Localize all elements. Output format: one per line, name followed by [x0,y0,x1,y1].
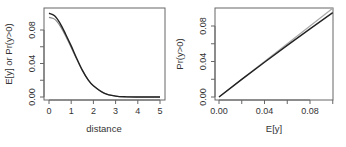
right-x-axis-label: E[y] [266,123,282,134]
right-x-axis: 0.000.040.08 [210,100,333,116]
x-tick-label: 0.08 [301,106,319,116]
x-tick-label: 0.00 [210,106,228,116]
x-tick-label: 2 [91,106,96,116]
series-line [49,13,160,97]
x-tick-label: 3 [113,106,118,116]
right-y-axis-label: Pr(y>0) [174,38,185,69]
left-series [49,13,160,97]
left-plot-frame [44,8,165,100]
x-tick-label: 5 [157,106,162,116]
series-line [219,13,333,97]
right-plot: 0.000.040.08 0.000.040.08 E[y] Pr(y>0) [174,8,333,134]
left-y-axis-label: E[y] or Pr(y>0) [3,23,14,85]
x-tick-label: 1 [69,106,74,116]
y-tick-label: 0.04 [198,53,208,71]
y-tick-label: 0.08 [198,17,208,35]
left-x-axis: 012345 [46,100,162,116]
left-x-axis-label: distance [86,123,121,134]
y-tick-label: 0.00 [27,88,37,106]
left-y-axis: 0.000.040.08 [27,21,44,106]
right-series [219,8,333,97]
series-line [49,17,160,97]
y-tick-label: 0.00 [198,88,208,106]
x-tick-label: 0 [46,106,51,116]
x-tick-label: 4 [135,106,140,116]
y-tick-label: 0.04 [27,55,37,73]
right-y-axis: 0.000.040.08 [198,17,215,106]
figure: 012345 0.000.040.08 distance E[y] or Pr(… [0,0,346,147]
left-plot: 012345 0.000.040.08 distance E[y] or Pr(… [3,8,165,134]
y-tick-label: 0.08 [27,21,37,39]
x-tick-label: 0.04 [256,106,274,116]
